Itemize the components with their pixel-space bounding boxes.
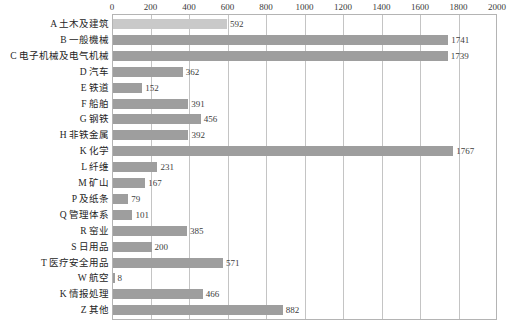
- bar-rows: A 土木及建筑592B 一般機械1741C 电子机械及电气机械1739D 汽车3…: [0, 14, 508, 320]
- bar-chart: 0200400600800100012001400160018002000 A …: [0, 0, 508, 328]
- bar-value-label: 456: [204, 111, 218, 127]
- bar: [113, 162, 157, 172]
- bar-row: M 矿山167: [0, 175, 508, 191]
- x-tick-label: 1600: [411, 1, 429, 13]
- bar: [113, 35, 448, 45]
- category-label: K 化学: [80, 143, 109, 159]
- bar: [113, 273, 115, 283]
- bar-value-label: 167: [148, 175, 162, 191]
- x-tick-label: 600: [221, 1, 235, 13]
- bar-row: W 航空8: [0, 270, 508, 286]
- bar-value-label: 200: [155, 239, 169, 255]
- bar: [113, 194, 128, 204]
- category-label: S 日用品: [71, 239, 109, 255]
- category-label: A 土木及建筑: [50, 16, 109, 32]
- bar-value-label: 8: [118, 270, 123, 286]
- bar-row: H 非铁金属392: [0, 127, 508, 143]
- bar: [113, 242, 152, 252]
- x-tick-label: 1000: [296, 1, 314, 13]
- bar: [113, 178, 145, 188]
- category-label: R 窑业: [80, 223, 109, 239]
- category-label: D 汽车: [80, 64, 109, 80]
- bar: [113, 51, 448, 61]
- bar-value-label: 231: [160, 159, 174, 175]
- category-label: M 矿山: [78, 175, 109, 191]
- category-label: L 纤维: [81, 159, 109, 175]
- x-tick-label: 0: [110, 1, 115, 13]
- bar-row: K 化学1767: [0, 143, 508, 159]
- category-label: Q 管理体系: [60, 207, 109, 223]
- bar-row: L 纤维231: [0, 159, 508, 175]
- bar-row: P 及纸条79: [0, 191, 508, 207]
- bar-value-label: 1741: [451, 32, 469, 48]
- x-tick-label: 800: [259, 1, 273, 13]
- bar-value-label: 571: [226, 255, 240, 271]
- category-label: G 钢铁: [80, 111, 109, 127]
- bar-row: D 汽车362: [0, 64, 508, 80]
- bar: [113, 289, 203, 299]
- x-axis-tick-labels: 0200400600800100012001400160018002000: [0, 0, 508, 15]
- bar-row: Z 其他882: [0, 302, 508, 318]
- bar-row: F 船舶391: [0, 96, 508, 112]
- bar-value-label: 392: [191, 127, 205, 143]
- bar: [113, 114, 201, 124]
- bar-value-label: 101: [135, 207, 149, 223]
- bar-value-label: 466: [206, 286, 220, 302]
- bar-value-label: 362: [186, 64, 200, 80]
- category-label: B 一般機械: [60, 32, 109, 48]
- bar-value-label: 79: [131, 191, 140, 207]
- bar-value-label: 882: [286, 302, 300, 318]
- x-tick-label: 2000: [488, 1, 506, 13]
- category-label: C 电子机械及电气机械: [10, 48, 109, 64]
- category-label: F 船舶: [81, 96, 109, 112]
- bar-row: R 窑业385: [0, 223, 508, 239]
- x-tick-label: 1800: [450, 1, 468, 13]
- category-label: E 铁道: [81, 80, 109, 96]
- bar: [113, 130, 188, 140]
- category-label: Z 其他: [81, 302, 109, 318]
- bar-value-label: 1739: [451, 48, 469, 64]
- bar-row: E 铁道152: [0, 80, 508, 96]
- category-label: W 航空: [78, 270, 109, 286]
- bar: [113, 258, 223, 268]
- bar: [113, 305, 283, 315]
- bar: [113, 83, 142, 93]
- x-tick-label: 1200: [334, 1, 352, 13]
- bar-row: A 土木及建筑592: [0, 16, 508, 32]
- category-label: P 及纸条: [72, 191, 109, 207]
- x-tick-label: 200: [144, 1, 158, 13]
- bar-value-label: 592: [230, 16, 244, 32]
- bar-row: S 日用品200: [0, 239, 508, 255]
- bar: [113, 19, 227, 29]
- bar-value-label: 391: [191, 96, 205, 112]
- bar: [113, 146, 453, 156]
- bar: [113, 210, 132, 220]
- bar-value-label: 385: [190, 223, 204, 239]
- bar-row: Q 管理体系101: [0, 207, 508, 223]
- bar: [113, 67, 183, 77]
- bar-row: T 医疗安全用品571: [0, 255, 508, 271]
- bar-value-label: 1767: [456, 143, 474, 159]
- category-label: K 情报処理: [60, 286, 109, 302]
- category-label: T 医疗安全用品: [41, 255, 109, 271]
- x-tick-label: 1400: [373, 1, 391, 13]
- bar: [113, 99, 188, 109]
- bar-row: G 钢铁456: [0, 111, 508, 127]
- bar: [113, 226, 187, 236]
- bar-value-label: 152: [145, 80, 159, 96]
- bar-row: B 一般機械1741: [0, 32, 508, 48]
- bar-row: C 电子机械及电气机械1739: [0, 48, 508, 64]
- category-label: H 非铁金属: [60, 127, 109, 143]
- bar-row: K 情报処理466: [0, 286, 508, 302]
- x-tick-label: 400: [182, 1, 196, 13]
